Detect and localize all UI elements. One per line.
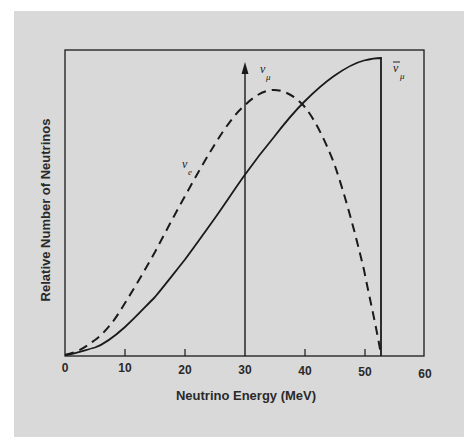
- svg-text:e: e: [188, 167, 192, 177]
- tick-60: 60: [418, 367, 432, 381]
- svg-text:μ: μ: [265, 72, 271, 82]
- tick-40: 40: [298, 364, 312, 378]
- tick-10: 10: [118, 361, 132, 375]
- label-nu-mu: ν μ: [260, 62, 271, 82]
- arrowhead-icon: [242, 62, 249, 74]
- chart: 0 10 20 30 40 50 60 Neutrino Energy (MeV…: [0, 0, 476, 445]
- y-axis-title: Relative Number of Neutrinos: [38, 119, 53, 302]
- x-tick-labels: 0 10 20 30 40 50 60: [62, 361, 432, 381]
- tick-50: 50: [358, 365, 372, 379]
- tick-0: 0: [62, 361, 69, 375]
- label-nu-e: ν e: [182, 157, 192, 177]
- svg-text:ν: ν: [393, 61, 399, 75]
- x-axis-title: Neutrino Energy (MeV): [176, 388, 316, 403]
- tick-30: 30: [238, 363, 252, 377]
- svg-text:μ: μ: [399, 71, 405, 81]
- tick-20: 20: [178, 363, 192, 377]
- series-nu-e-dashed: [65, 90, 381, 355]
- label-nu-mu-bar: ν μ: [393, 61, 405, 81]
- series-nu-mu-bar-solid: [65, 58, 381, 356]
